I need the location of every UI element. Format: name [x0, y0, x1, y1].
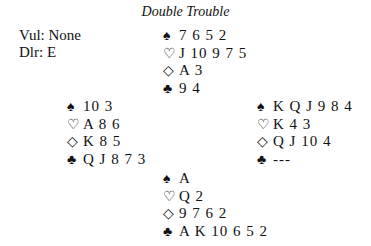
vulnerability: Vul: None: [19, 27, 81, 44]
diamond-icon: ◇: [163, 205, 179, 223]
north-diamonds: A 3: [179, 62, 203, 78]
diamond-icon: ◇: [163, 62, 179, 80]
diamond-icon: ◇: [67, 133, 83, 151]
north-spades: 7 6 5 2: [179, 27, 227, 43]
spade-icon: ♠: [67, 98, 83, 116]
heart-icon: ♡: [163, 45, 179, 63]
diamond-icon: ◇: [257, 133, 273, 151]
club-icon: ♣: [163, 223, 179, 241]
north-hearts: J 10 9 7 5: [179, 45, 247, 61]
south-diamonds: 9 7 6 2: [179, 205, 227, 221]
east-hearts: K 4 3: [273, 116, 311, 132]
club-icon: ♣: [163, 80, 179, 98]
heart-icon: ♡: [163, 188, 179, 206]
dealer: Dlr: E: [19, 44, 81, 61]
page-title: Double Trouble: [0, 4, 371, 20]
north-hand: ♠7 6 5 2 ♡J 10 9 7 5 ◇A 3 ♣9 4: [163, 27, 247, 97]
west-hand: ♠10 3 ♡A 8 6 ◇K 8 5 ♣Q J 8 7 3: [67, 98, 146, 168]
east-diamonds: Q J 10 4: [273, 133, 331, 149]
north-clubs: 9 4: [179, 80, 201, 96]
west-clubs: Q J 8 7 3: [83, 151, 146, 167]
west-hearts: A 8 6: [83, 116, 121, 132]
heart-icon: ♡: [257, 116, 273, 134]
west-spades: 10 3: [83, 98, 113, 114]
south-hearts: Q 2: [179, 188, 204, 204]
spade-icon: ♠: [163, 27, 179, 45]
spade-icon: ♠: [163, 170, 179, 188]
spade-icon: ♠: [257, 98, 273, 116]
east-clubs: ---: [273, 151, 291, 167]
heart-icon: ♡: [67, 116, 83, 134]
south-clubs: A K 10 6 5 2: [179, 223, 268, 239]
east-hand: ♠K Q J 9 8 4 ♡K 4 3 ◇Q J 10 4 ♣---: [257, 98, 353, 168]
club-icon: ♣: [67, 151, 83, 169]
deal-info: Vul: None Dlr: E: [19, 27, 81, 61]
club-icon: ♣: [257, 151, 273, 169]
west-diamonds: K 8 5: [83, 133, 121, 149]
south-hand: ♠A ♡Q 2 ◇9 7 6 2 ♣A K 10 6 5 2: [163, 170, 268, 240]
south-spades: A: [179, 170, 191, 186]
east-spades: K Q J 9 8 4: [273, 98, 353, 114]
